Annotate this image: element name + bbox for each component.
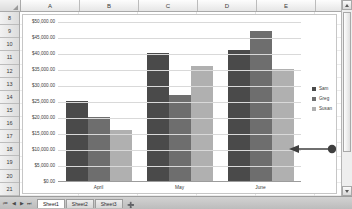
bar-sam-may[interactable] xyxy=(147,53,169,181)
sheet-tab-sheet3[interactable]: Sheet3 xyxy=(95,199,123,208)
y-axis-tick-label: $30,000.00 xyxy=(32,84,55,89)
y-axis-tick-label: $5,000.00 xyxy=(35,164,55,169)
row-header-16[interactable]: 16 xyxy=(0,117,19,130)
column-header-d[interactable]: D xyxy=(198,0,257,11)
gridline xyxy=(58,166,301,167)
gridline xyxy=(58,118,301,119)
gridline xyxy=(58,22,301,23)
chart-legend[interactable]: SamGregSusan xyxy=(312,87,332,112)
sheet-nav-buttons: ⏮ ◀ ▶ ⏭ xyxy=(2,199,33,208)
gridline xyxy=(58,86,301,87)
row-header-17[interactable]: 17 xyxy=(0,130,19,143)
sheet-tab-sheet2[interactable]: Sheet2 xyxy=(66,199,94,208)
y-axis-tick-label: $50,000.00 xyxy=(32,20,55,25)
gridline xyxy=(58,70,301,71)
legend-label: Greg xyxy=(319,97,329,102)
bar-groups: AprilMayJune xyxy=(58,21,301,181)
row-header-18[interactable]: 18 xyxy=(0,143,19,156)
column-header-row: ABCDE xyxy=(0,0,352,12)
legend-swatch-icon xyxy=(312,87,316,91)
bar-greg-may[interactable] xyxy=(169,95,191,181)
x-axis-tick-label: May xyxy=(139,185,220,190)
scroll-down-arrow-icon[interactable] xyxy=(342,186,352,196)
bar-susan-may[interactable] xyxy=(191,66,213,181)
select-all-corner[interactable] xyxy=(0,0,21,11)
bar-susan-april[interactable] xyxy=(110,130,132,181)
row-header-14[interactable]: 14 xyxy=(0,91,19,104)
bar-greg-april[interactable] xyxy=(88,117,110,181)
sheet-tab-sheet1[interactable]: Sheet1 xyxy=(37,199,65,208)
sheet-tab-bar: ⏮ ◀ ▶ ⏭ Sheet1Sheet2Sheet3➕ xyxy=(0,196,352,209)
column-header-c[interactable]: C xyxy=(139,0,198,11)
x-axis-tick-label: April xyxy=(58,185,139,190)
column-header-e[interactable]: E xyxy=(257,0,316,11)
chart-object[interactable]: AprilMayJune $50,000.00$45,000.00$40,000… xyxy=(22,14,337,194)
nav-prev-icon[interactable]: ◀ xyxy=(10,199,17,208)
row-header-8[interactable]: 8 xyxy=(0,12,19,25)
gridline xyxy=(58,38,301,39)
row-header-13[interactable]: 13 xyxy=(0,78,19,91)
legend-item-sam[interactable]: Sam xyxy=(312,87,332,92)
legend-label: Susan xyxy=(319,107,332,112)
y-axis-tick-label: $0.00 xyxy=(44,180,56,185)
gridline xyxy=(58,150,301,151)
nav-next-icon[interactable]: ▶ xyxy=(18,199,25,208)
row-header-19[interactable]: 19 xyxy=(0,156,19,169)
nav-first-icon[interactable]: ⏮ xyxy=(2,199,9,208)
legend-label: Sam xyxy=(319,87,328,92)
row-header-column: 89101112131415161718192021 xyxy=(0,12,20,196)
row-header-21[interactable]: 21 xyxy=(0,183,19,196)
vertical-scrollbar[interactable] xyxy=(341,0,352,196)
y-axis-tick-label: $10,000.00 xyxy=(32,148,55,153)
chart-plot-area: AprilMayJune $50,000.00$45,000.00$40,000… xyxy=(58,21,301,182)
row-header-20[interactable]: 20 xyxy=(0,170,19,183)
bar-group-june: June xyxy=(220,21,301,181)
bar-group-may: May xyxy=(139,21,220,181)
nav-last-icon[interactable]: ⏭ xyxy=(26,199,33,208)
row-header-10[interactable]: 10 xyxy=(0,38,19,51)
gridline xyxy=(58,134,301,135)
bar-sam-april[interactable] xyxy=(66,101,88,181)
scroll-up-arrow-icon[interactable] xyxy=(342,0,352,10)
legend-item-greg[interactable]: Greg xyxy=(312,97,332,102)
y-axis-tick-label: $20,000.00 xyxy=(32,116,55,121)
gridline xyxy=(58,102,301,103)
legend-item-susan[interactable]: Susan xyxy=(312,107,332,112)
y-axis-tick-label: $25,000.00 xyxy=(32,100,55,105)
x-axis-line xyxy=(58,181,301,182)
add-sheet-icon[interactable]: ➕ xyxy=(124,201,137,208)
arrow-annotation-icon xyxy=(288,143,336,155)
y-axis-tick-label: $15,000.00 xyxy=(32,132,55,137)
row-header-15[interactable]: 15 xyxy=(0,104,19,117)
x-axis-tick-label: June xyxy=(220,185,301,190)
row-header-9[interactable]: 9 xyxy=(0,25,19,38)
legend-swatch-icon xyxy=(312,107,316,111)
y-axis-tick-label: $35,000.00 xyxy=(32,68,55,73)
excel-worksheet-window: ABCDE 89101112131415161718192021 AprilMa… xyxy=(0,0,352,209)
y-axis-tick-label: $45,000.00 xyxy=(32,36,55,41)
bar-group-april: April xyxy=(58,21,139,181)
legend-swatch-icon xyxy=(312,97,316,101)
scrollbar-thumb[interactable] xyxy=(343,12,351,152)
y-axis-tick-label: $40,000.00 xyxy=(32,52,55,57)
row-header-12[interactable]: 12 xyxy=(0,65,19,78)
column-header-a[interactable]: A xyxy=(21,0,80,11)
row-header-11[interactable]: 11 xyxy=(0,51,19,64)
column-header-b[interactable]: B xyxy=(80,0,139,11)
gridline xyxy=(58,54,301,55)
